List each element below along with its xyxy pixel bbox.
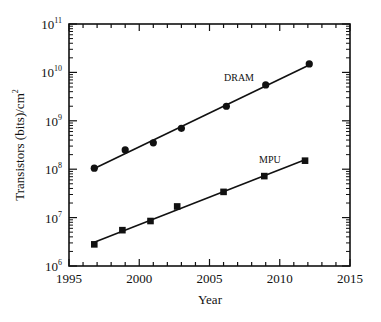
dram-point [122,146,129,153]
mpu-point [91,241,98,248]
y-tick-label: 109 [45,113,62,129]
transistor-density-chart: 1995200020052010201510610710810910101011… [0,0,381,322]
plot-frame [69,24,350,266]
axis-ticks: 1995200020052010201510610710810910101011 [41,16,363,286]
y-tick-label: 107 [45,210,62,226]
dram-point [306,60,313,67]
dram-point [223,103,230,110]
dram-label: DRAM [224,72,254,83]
dram-point [150,139,157,146]
mpu-point [147,218,154,225]
mpu-point [261,173,268,180]
x-tick-label: 2000 [126,271,152,286]
figure-caption-blurred [0,307,381,322]
mpu-fit-line [94,160,305,242]
mpu-point [302,157,309,164]
mpu-point [220,189,227,196]
x-tick-label: 2005 [197,271,223,286]
x-axis-title: Year [198,292,223,307]
x-tick-label: 2015 [337,271,363,286]
mpu-point [174,203,181,210]
y-tick-label: 1010 [41,64,62,80]
dram-point [262,81,269,88]
dram-point [178,125,185,132]
dram-point [91,165,98,172]
y-tick-label: 108 [45,161,62,177]
mpu-label: MPU [259,154,281,165]
y-tick-label: 1011 [41,16,62,32]
y-axis-title: Transistors (bits)/cm2 [11,89,27,201]
x-tick-label: 1995 [56,271,82,286]
mpu-point [119,227,126,234]
x-tick-label: 2010 [267,271,293,286]
